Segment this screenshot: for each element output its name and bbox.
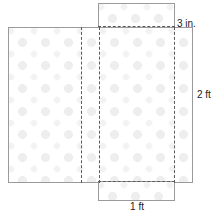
fold-line-horizontal-bottom	[98, 181, 175, 182]
main-sheet-panel	[8, 27, 193, 183]
fold-line-vertical-right	[174, 27, 175, 183]
fold-line-vertical-inner	[99, 27, 100, 183]
dimension-label-right: 2 ft	[197, 89, 211, 100]
fold-line-vertical-left	[81, 27, 82, 183]
fold-line-horizontal-top	[98, 26, 175, 27]
dimension-label-bottom: 1 ft	[119, 201, 155, 212]
wrapping-paper-diagram: 3 in. 2 ft 1 ft	[0, 0, 220, 214]
bottom-flap-panel	[98, 181, 175, 201]
top-flap-panel	[98, 3, 175, 28]
dimension-label-top: 3 in.	[177, 18, 196, 29]
